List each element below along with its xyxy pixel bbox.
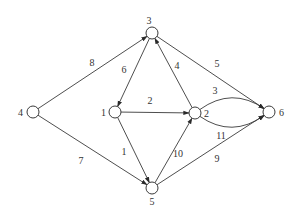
edge-weight-3-to-1: 6: [122, 64, 127, 75]
edge-weight-5-to-6: 9: [215, 153, 220, 164]
edge-weight-1-to-2: 2: [148, 95, 153, 106]
edge-weight-2-to-6: 11: [216, 130, 226, 141]
edge-weight-2-to-6: 3: [213, 85, 218, 96]
node-2: [189, 107, 201, 119]
edges-layer: [38, 36, 264, 184]
network-graph: 8645231117109123456: [0, 0, 303, 219]
edge-weight-4-to-5: 7: [79, 155, 84, 166]
node-1: [109, 106, 121, 118]
edge-4-to-3: [38, 36, 147, 108]
node-5: [146, 182, 158, 194]
edge-2-to-3: [155, 38, 192, 107]
labels-layer: 8645231117109123456: [18, 15, 284, 207]
edge-weight-5-to-2: 10: [173, 148, 183, 159]
node-4: [27, 106, 39, 118]
node-label-1: 1: [101, 107, 106, 118]
node-label-2: 2: [204, 108, 209, 119]
edge-weight-3-to-6: 5: [215, 58, 220, 69]
edge-2-to-6: [200, 98, 264, 110]
node-label-4: 4: [18, 107, 23, 118]
node-3: [146, 27, 158, 39]
node-label-5: 5: [150, 196, 155, 207]
node-label-3: 3: [147, 15, 152, 26]
edge-weight-1-to-5: 1: [122, 146, 127, 157]
edge-weight-4-to-3: 8: [90, 57, 95, 68]
edge-1-to-2: [121, 112, 189, 113]
edge-weight-2-to-3: 4: [175, 60, 180, 71]
node-label-6: 6: [279, 107, 284, 118]
node-6: [263, 106, 275, 118]
edge-4-to-5: [38, 115, 147, 185]
nodes-layer: [27, 27, 275, 194]
